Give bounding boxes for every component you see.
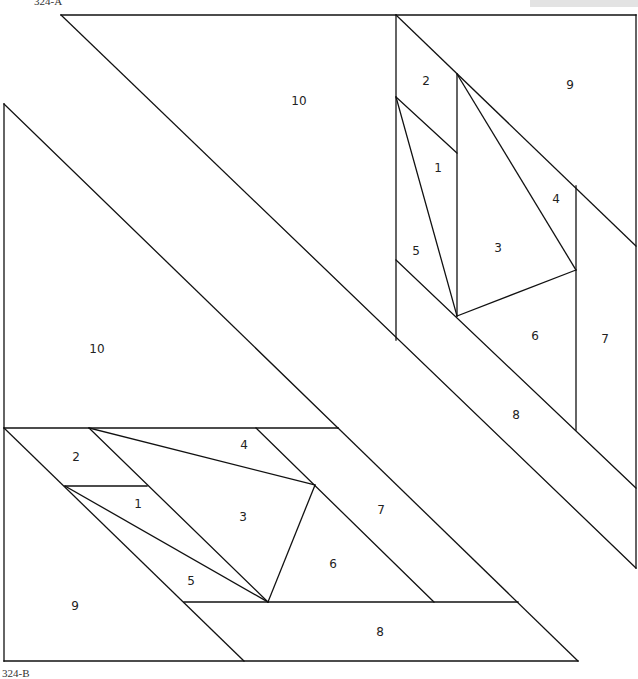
piece-number-label: 8 [376,625,384,639]
piece-number-label: 2 [72,450,80,464]
figure-caption-a: 324-A [34,0,62,7]
piece-number-label: 7 [601,332,609,346]
figure-caption-b: 324-B [2,667,30,679]
piece-number-label: 2 [422,74,430,88]
piece-number-label: 4 [240,438,248,452]
seam-line [396,260,636,488]
seam-line [89,428,315,485]
piece-number-label: 6 [531,329,539,343]
piece-number-label: 6 [329,557,337,571]
piece-number-label: 1 [134,497,142,511]
seam-line [338,428,578,661]
seam-line [457,74,576,270]
piece-number-label: 9 [71,599,79,613]
piece-number-label: 4 [552,192,560,206]
piece-number-label: 7 [377,503,385,517]
piece-number-label: 8 [512,408,520,422]
piece-number-label: 5 [412,244,420,258]
piece-number-label: 5 [187,574,195,588]
seam-line [268,485,315,602]
seam-line [396,97,457,153]
piece-number-label: 10 [89,342,104,356]
seam-line [4,104,338,428]
seam-line [457,270,576,316]
piece-number-label: 10 [291,94,306,108]
piece-number-label: 1 [434,161,442,175]
piece-number-label: 3 [494,241,502,255]
seam-line [396,97,457,316]
seam-line [256,428,434,602]
piece-number-label: 3 [239,510,247,524]
piece-number-label: 9 [566,78,574,92]
